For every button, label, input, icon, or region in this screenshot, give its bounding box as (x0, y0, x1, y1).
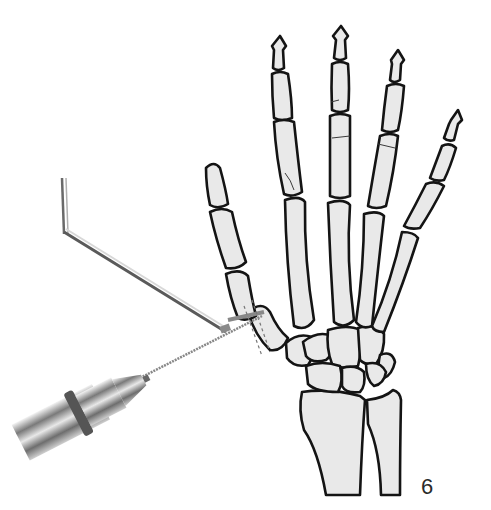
figure-number: 6 (421, 474, 433, 500)
wire-driver (10, 356, 160, 464)
radius-bone (300, 391, 365, 495)
ulna-bone (367, 390, 401, 495)
index-finger-phalanges (272, 36, 302, 196)
kirschner-wire (140, 316, 262, 378)
little-finger-phalanges (404, 110, 462, 229)
forearm-bones (300, 390, 401, 495)
ring-finger-phalanges (368, 50, 404, 208)
carpal-bones (286, 326, 395, 392)
middle-finger-phalanges (330, 26, 350, 198)
thumb-phalanges (206, 164, 256, 320)
hand-skeleton-drawing (0, 0, 491, 510)
illustration: 6 (0, 0, 491, 510)
